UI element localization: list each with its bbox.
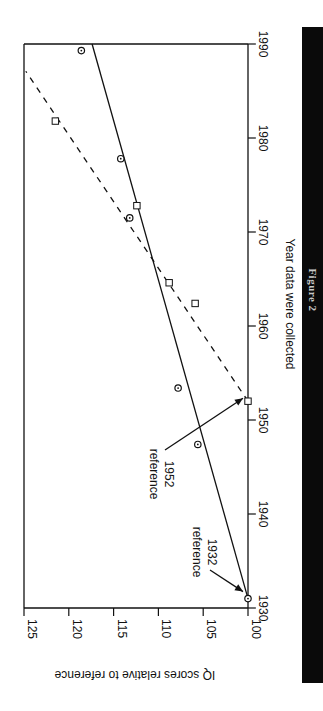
year-axis-ticks: 1930194019501960197019801990 (248, 31, 270, 622)
iq-tick-label: 120 (70, 619, 84, 639)
annotation-1932-line2: 1932 (205, 539, 219, 566)
annotation-1952-line1: reference (147, 449, 161, 500)
annotation-reference-1952: reference 1952 (147, 449, 176, 500)
annotation-1932-line1: reference (190, 527, 204, 578)
year-tick-label: 1990 (256, 31, 270, 58)
square-marker (245, 398, 251, 404)
fit-lines (26, 44, 248, 599)
square-marker (134, 202, 140, 208)
iq-tick-label: 105 (204, 619, 218, 639)
arrowhead-icon (234, 584, 243, 591)
iq-axis-ticks: 100105110115120125 (24, 608, 263, 639)
year-tick-label: 1950 (256, 407, 270, 434)
circle-marker-dot (197, 444, 199, 446)
caption-bar (302, 27, 323, 683)
circle-marker-dot (247, 598, 249, 600)
iq-tick-label: 110 (159, 619, 173, 638)
circle-marker-dot (80, 50, 82, 52)
square-marker (192, 300, 198, 306)
iq-tick-label: 115 (115, 619, 129, 638)
fit-line-dashed (26, 71, 248, 401)
iq-tick-label: 125 (25, 619, 39, 639)
square-marker (52, 118, 58, 124)
x-axis-title: Year data were collected (283, 239, 297, 370)
figure-caption: Figure 2 (307, 268, 319, 311)
year-tick-label: 1960 (256, 313, 270, 340)
fit-line-solid (92, 44, 248, 599)
iq-tick-label: 100 (249, 619, 263, 639)
iq-year-chart: 1930194019501960197019801990 10010511011… (0, 0, 323, 711)
year-tick-label: 1980 (256, 125, 270, 152)
year-tick-label: 1970 (256, 219, 270, 246)
annotation-1952-line2: 1952 (162, 461, 176, 488)
year-tick-label: 1930 (256, 595, 270, 622)
arrowhead-icon (234, 398, 243, 405)
circle-marker-dot (129, 217, 131, 219)
y-axis-title: IQ scores relative to reference (54, 668, 215, 682)
square-marker (166, 280, 172, 286)
circle-marker-dot (177, 387, 179, 389)
plot-frame (24, 44, 248, 608)
annotation-reference-1932: reference 1932 (190, 527, 219, 578)
circle-marker-dot (120, 158, 122, 160)
data-markers (52, 47, 251, 601)
year-tick-label: 1940 (256, 501, 270, 528)
